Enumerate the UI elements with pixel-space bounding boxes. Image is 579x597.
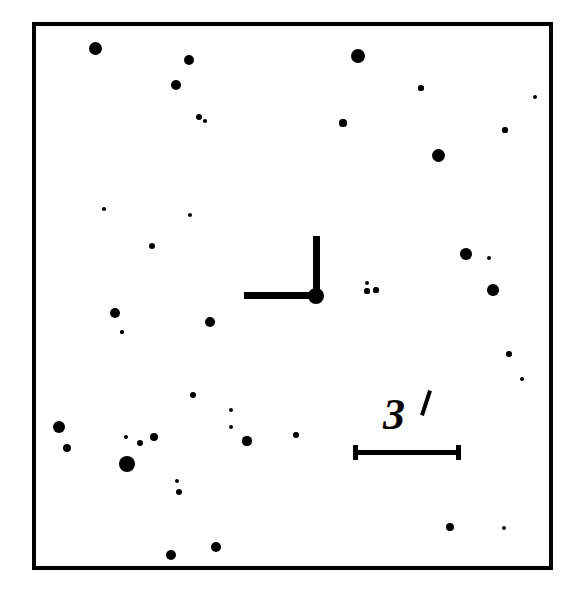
scale-bar-label: 3 bbox=[383, 393, 405, 437]
target-marker-horizontal-tick bbox=[244, 292, 310, 299]
scale-bar-line bbox=[353, 450, 461, 455]
target-marker-vertical-tick bbox=[313, 236, 320, 293]
finding-chart: 3 bbox=[0, 0, 579, 597]
target-star-marker bbox=[308, 288, 324, 304]
scale-bar-right-cap bbox=[456, 445, 461, 460]
scale-bar-left-cap bbox=[353, 445, 358, 460]
